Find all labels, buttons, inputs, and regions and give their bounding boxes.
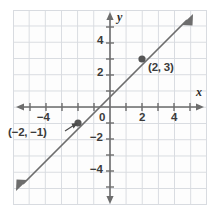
- x-axis-label: x: [196, 85, 202, 100]
- plot-svg: [0, 0, 220, 211]
- point-label-neg2-neg1: (−2, −1): [8, 126, 47, 138]
- point-label-2-3: (2, 3): [148, 61, 174, 73]
- plotted-line: [16, 14, 193, 191]
- x-tick-label-0: 0: [99, 111, 105, 123]
- x-tick-label-2: 2: [139, 111, 145, 123]
- y-axis: [106, 12, 113, 204]
- y-tick-label-neg4: −4: [90, 163, 103, 175]
- coordinate-plane-figure: x y −4 0 2 4 4 2 −2 −4 (2, 3) (−2, −1): [0, 0, 220, 211]
- y-tick-label-4: 4: [97, 34, 103, 46]
- y-tick-label-2: 2: [97, 66, 103, 78]
- y-tick-label-neg2: −2: [90, 131, 103, 143]
- x-tick-label-4: 4: [171, 111, 177, 123]
- x-tick-label-neg4: −4: [37, 111, 50, 123]
- y-axis-label: y: [117, 10, 122, 25]
- data-point-2-3: [138, 55, 145, 62]
